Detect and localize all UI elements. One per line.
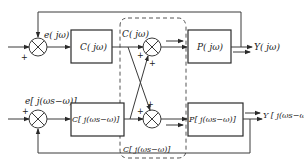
lower-coupling-junction [143,110,161,128]
coupling-region-border [120,18,186,158]
upper-plant-label: P( jω) [196,42,224,52]
upper-mid-plus-sign-1: + [137,51,144,60]
lower-controller-label: C[ j(ωs−ω)] [72,115,120,124]
lower-input-plus-sign: + [22,107,29,116]
upper-mid-plus-sign-2: + [149,59,156,68]
upper-controller-label: C( jω) [80,42,107,52]
upper-output-label: Y( jω) [254,42,280,52]
lower-error-label: e[ j(ωs−ω)] [25,96,77,106]
upper-error-label: e( jω) [44,30,70,40]
lower-mid-plus-sign-1: + [137,107,144,116]
block-diagram: + e( jω) C( jω) C( jω) + + P( jω) Y( jω)… [0,0,304,162]
upper-coupling-junction [143,38,161,56]
upper-summing-junction [29,38,47,56]
lower-plant-label: P[ j(ωs−ω)] [188,115,237,124]
upper-controller-output-label: C( jω) [122,29,149,39]
lower-output-label: Y [ j(ωs−ω)] [263,111,304,120]
upper-input-plus-sign: + [21,53,28,62]
lower-summing-junction [29,110,47,128]
